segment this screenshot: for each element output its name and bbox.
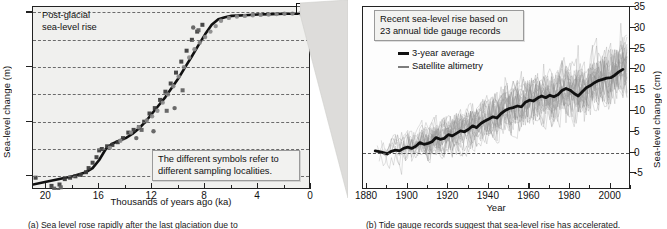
y-tick-mark xyxy=(630,68,636,69)
panel-b-legend: 3-year average Satellite altimetry xyxy=(398,47,483,74)
legend-label: Satellite altimetry xyxy=(412,60,483,73)
x-tick-mark xyxy=(257,183,258,189)
y-tick-mark xyxy=(630,27,636,28)
y-tick-mark xyxy=(26,175,32,176)
gridline xyxy=(33,40,309,41)
legend-swatch-line-icon xyxy=(398,66,409,68)
figure-root: Sea-level change (m) 0-40-80-120 2016128… xyxy=(0,0,667,229)
x-tick-mark xyxy=(488,183,489,189)
x-tick-mark xyxy=(151,183,152,189)
x-tick-mark xyxy=(569,183,570,189)
y-tick-mark xyxy=(630,152,636,153)
x-tick-mark xyxy=(72,185,73,189)
x-tick-mark xyxy=(447,183,448,189)
x-tick-mark xyxy=(508,185,509,189)
y-tick-mark xyxy=(630,172,636,173)
panel-b-y-axis-title: Sea-level change (cm) xyxy=(651,48,662,168)
gridline xyxy=(33,67,309,68)
x-tick-mark xyxy=(178,185,179,189)
panel-a-y-axis-title: Sea-level change (m) xyxy=(1,38,12,158)
y-tick-mark xyxy=(26,121,32,122)
y-tick-mark xyxy=(630,110,636,111)
legend-swatch-line-icon xyxy=(398,52,409,55)
x-tick-mark xyxy=(468,185,469,189)
x-tick-mark xyxy=(589,185,590,189)
x-tick-label: 2000 xyxy=(599,190,621,201)
legend-item-satellite-altimetry: Satellite altimetry xyxy=(398,60,483,73)
x-tick-label: 1980 xyxy=(558,190,580,201)
panel-a-caption: (a) Sea level rose rapidly after the las… xyxy=(28,220,238,229)
x-tick-label: 1940 xyxy=(477,190,499,201)
x-tick-mark xyxy=(528,183,529,189)
x-tick-mark xyxy=(98,183,99,189)
x-tick-mark xyxy=(366,183,367,189)
panel-b-zero-reference-line xyxy=(363,153,629,154)
legend-label: 3-year average xyxy=(412,47,475,60)
panel-a-post-glacial-chart: Sea-level change (m) 0-40-80-120 2016128… xyxy=(0,0,320,229)
x-tick-mark xyxy=(630,185,631,189)
legend-item-3-year-average: 3-year average xyxy=(398,47,483,60)
x-tick-mark xyxy=(610,183,611,189)
panel-b-x-axis-title: Year xyxy=(362,202,630,213)
x-tick-mark xyxy=(204,183,205,189)
panel-a-post-glacial-note: Post-glacial sea-level rise xyxy=(42,10,97,34)
panel-b-description-callout: Recent sea-level rise based on 23 annual… xyxy=(374,10,524,41)
x-tick-mark xyxy=(125,185,126,189)
x-tick-mark xyxy=(45,183,46,189)
y-tick-mark xyxy=(26,66,32,67)
x-tick-label: 1900 xyxy=(396,190,418,201)
y-tick-mark xyxy=(630,6,636,7)
x-tick-mark xyxy=(407,183,408,189)
y-tick-mark xyxy=(630,89,636,90)
panel-a-x-axis-title: Thousands of years ago (ka) xyxy=(32,196,310,207)
y-tick-mark xyxy=(630,131,636,132)
panel-b-recent-rise-chart: -505101520253035 18801900192019401960198… xyxy=(340,0,667,229)
x-tick-mark xyxy=(427,185,428,189)
y-tick-mark xyxy=(26,11,32,12)
x-tick-label: 1920 xyxy=(436,190,458,201)
panel-b-caption: (b) Tide gauge records suggest that sea-… xyxy=(366,220,620,229)
panel-a-symbols-callout: The different symbols refer to different… xyxy=(152,150,300,181)
y-tick-mark xyxy=(630,48,636,49)
x-tick-mark xyxy=(284,185,285,189)
x-tick-mark xyxy=(231,185,232,189)
x-tick-label: 1960 xyxy=(517,190,539,201)
x-tick-mark xyxy=(549,185,550,189)
x-tick-label: 1880 xyxy=(355,190,377,201)
gridline xyxy=(33,94,309,95)
gridline xyxy=(33,122,309,123)
x-tick-mark xyxy=(386,185,387,189)
